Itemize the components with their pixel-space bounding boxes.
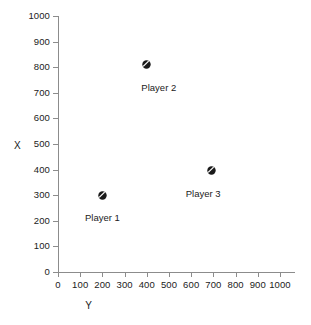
y-tick-mark (53, 16, 58, 17)
x-tick-mark (236, 273, 237, 277)
x-tick-mark (213, 273, 214, 277)
data-point-label: Player 3 (186, 189, 221, 199)
y-tick-label: 400 (12, 165, 50, 175)
y-tick-mark (53, 195, 58, 196)
data-point-label: Player 1 (85, 213, 120, 223)
x-tick-mark (169, 273, 170, 277)
y-tick-mark (53, 67, 58, 68)
x-tick-mark (102, 273, 103, 277)
x-tick-mark (258, 273, 259, 277)
y-tick-label: 100 (12, 241, 50, 251)
x-tick-mark (125, 273, 126, 277)
y-tick-mark (53, 42, 58, 43)
y-tick-label: 700 (12, 88, 50, 98)
y-tick-label: 0 (12, 267, 50, 277)
data-point-marker[interactable] (142, 60, 151, 69)
y-tick-label: 800 (12, 62, 50, 72)
y-tick-mark (53, 246, 58, 247)
data-point-label: Player 2 (141, 83, 176, 93)
y-tick-mark (53, 170, 58, 171)
x-tick-mark (58, 273, 59, 277)
x-axis-title: Y (0, 300, 311, 311)
y-tick-mark (53, 221, 58, 222)
x-axis-line (58, 272, 295, 273)
data-point-marker[interactable] (98, 191, 107, 200)
x-tick-mark (147, 273, 148, 277)
scatter-plot: 01002003004005006007008009001000 0100200… (0, 0, 311, 325)
x-tick-mark (80, 273, 81, 277)
x-tick-label: 1000 (263, 280, 297, 290)
data-point-marker[interactable] (207, 166, 216, 175)
y-axis-title: X (14, 140, 21, 151)
y-tick-label: 1000 (12, 11, 50, 21)
y-tick-mark (53, 93, 58, 94)
y-tick-label: 300 (12, 190, 50, 200)
y-axis-line (58, 16, 59, 273)
y-tick-label: 200 (12, 216, 50, 226)
x-tick-mark (191, 273, 192, 277)
y-tick-label: 900 (12, 37, 50, 47)
x-tick-mark (280, 273, 281, 277)
y-tick-mark (53, 144, 58, 145)
y-tick-label: 600 (12, 113, 50, 123)
y-tick-mark (53, 118, 58, 119)
